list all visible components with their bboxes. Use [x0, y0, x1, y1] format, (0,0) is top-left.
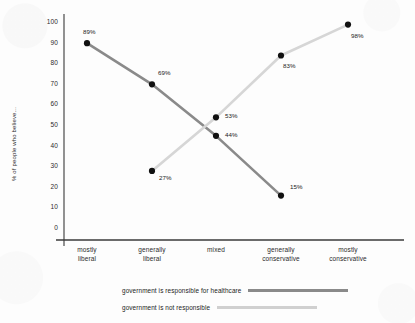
data-point-value-label: 69%: [158, 69, 171, 76]
x-axis-category-label: mostlyliberal: [51, 246, 123, 263]
legend-label: government is responsible for healthcare: [122, 287, 241, 294]
data-point-marker: [213, 114, 219, 120]
series-line-0: [87, 43, 281, 195]
data-point-value-label: 98%: [351, 32, 364, 39]
data-point-marker: [278, 52, 284, 58]
legend-swatch-line: [248, 289, 348, 291]
data-point-marker: [213, 133, 219, 139]
chart-plot-area: [0, 0, 415, 323]
chart-legend: government is responsible for healthcare…: [122, 282, 384, 316]
legend-swatch-line: [217, 306, 317, 308]
data-point-value-label: 83%: [283, 62, 296, 69]
data-point-marker: [278, 193, 284, 199]
data-point-value-label: 53%: [225, 112, 238, 119]
legend-item-responsible: government is responsible for healthcare: [122, 282, 384, 299]
series-line-1: [152, 25, 348, 171]
data-point-value-label: 15%: [290, 183, 303, 190]
data-point-value-label: 44%: [225, 131, 238, 138]
data-point-value-label: 27%: [159, 174, 172, 181]
x-axis-category-label: mostlyconservative: [312, 246, 384, 263]
data-point-value-label: 89%: [83, 28, 96, 35]
data-point-marker: [84, 40, 90, 46]
x-axis-category-label: mixed: [180, 246, 252, 255]
x-axis-category-label: generallyconservative: [245, 246, 317, 263]
legend-item-not-responsible: government is not responsible: [122, 299, 384, 316]
data-point-marker: [149, 81, 155, 87]
data-point-marker: [345, 22, 351, 28]
data-point-marker: [149, 168, 155, 174]
chart-page: % of people who believe... 1009080706050…: [0, 0, 415, 323]
chart-series: [87, 25, 348, 196]
chart-markers: [84, 22, 351, 199]
legend-label: government is not responsible: [122, 304, 210, 311]
x-axis-category-label: generallyliberal: [116, 246, 188, 263]
